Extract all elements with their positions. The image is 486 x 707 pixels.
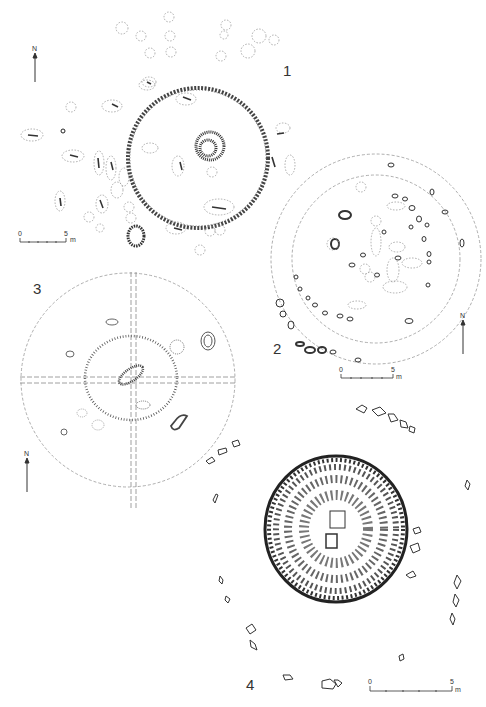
scale-unit-label: m <box>70 236 76 243</box>
plan-2 <box>271 154 481 364</box>
plan-3 <box>20 272 236 510</box>
scale-bar <box>370 686 452 692</box>
scale-bar <box>20 238 66 243</box>
plan-3-trenches <box>20 272 236 510</box>
plan-1-outer-features <box>21 12 295 255</box>
north-label: N <box>460 312 465 319</box>
scale-unit-label: m <box>396 373 402 380</box>
scale-unit-label: m <box>455 686 461 693</box>
plan-2-stones <box>276 163 464 362</box>
plan-3-outer-ring <box>21 273 235 487</box>
scale-end-label: 5 <box>391 366 395 373</box>
north-label: N <box>24 450 29 457</box>
scale-start-label: 0 <box>368 678 372 685</box>
figure-plans <box>0 0 486 707</box>
plan-1-stone-circle <box>128 88 268 228</box>
north-label: N <box>32 45 37 52</box>
plan-2-outer-ring <box>271 154 481 364</box>
plan-4-number: 4 <box>246 676 254 693</box>
north-arrow-icon <box>461 320 465 354</box>
scale-end-label: 5 <box>450 678 454 685</box>
plan-3-number: 3 <box>33 280 41 297</box>
scale-bar <box>341 374 393 379</box>
plan-1 <box>21 12 295 255</box>
scale-start-label: 0 <box>18 230 22 237</box>
plan-4-outer-stones <box>206 405 470 689</box>
scale-end-label: 5 <box>64 230 68 237</box>
plan-4 <box>206 405 470 689</box>
plan-4-cist <box>330 511 345 528</box>
plan-1-central-cairn <box>196 132 224 177</box>
plan-1-number: 1 <box>283 62 291 79</box>
north-arrow-icon <box>33 53 37 82</box>
plan-1-southwest-cairn <box>128 226 144 246</box>
plan-2-interior-features <box>327 182 422 309</box>
plan-2-number: 2 <box>273 340 281 357</box>
scale-start-label: 0 <box>339 366 343 373</box>
north-arrow-icon <box>25 458 29 492</box>
plan-2-inner-ring <box>292 175 460 343</box>
